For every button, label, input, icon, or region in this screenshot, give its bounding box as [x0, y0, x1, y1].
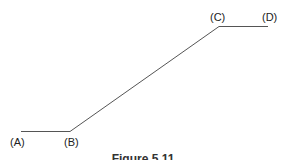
ramp-line: [21, 27, 268, 132]
point-label-c: (C): [210, 11, 225, 23]
diagram-canvas: [0, 0, 286, 160]
figure-caption: Figure 5.11: [0, 152, 286, 160]
point-label-a: (A): [10, 136, 25, 148]
point-label-d: (D): [262, 11, 277, 23]
step-line-diagram: (A) (B) (C) (D) Figure 5.11: [0, 0, 286, 160]
point-label-b: (B): [64, 136, 79, 148]
